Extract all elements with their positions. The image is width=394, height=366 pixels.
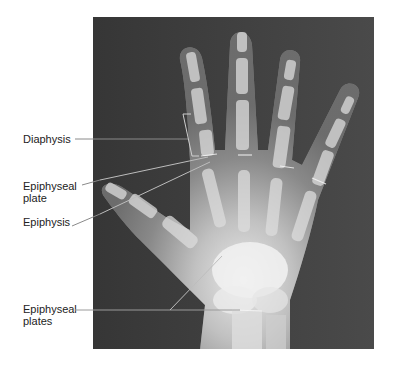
leader-line-epiphysis-outer bbox=[72, 214, 100, 226]
leader-line-epiphyseal-plates-branch bbox=[170, 256, 222, 310]
leader-line-epiphyseal-plate bbox=[100, 157, 208, 180]
leader-line-epiphysis bbox=[100, 162, 210, 214]
diaphysis-bracket bbox=[183, 114, 199, 156]
leader-lines bbox=[0, 0, 394, 366]
leader-line-epiphyseal-plate-outer bbox=[82, 180, 100, 185]
